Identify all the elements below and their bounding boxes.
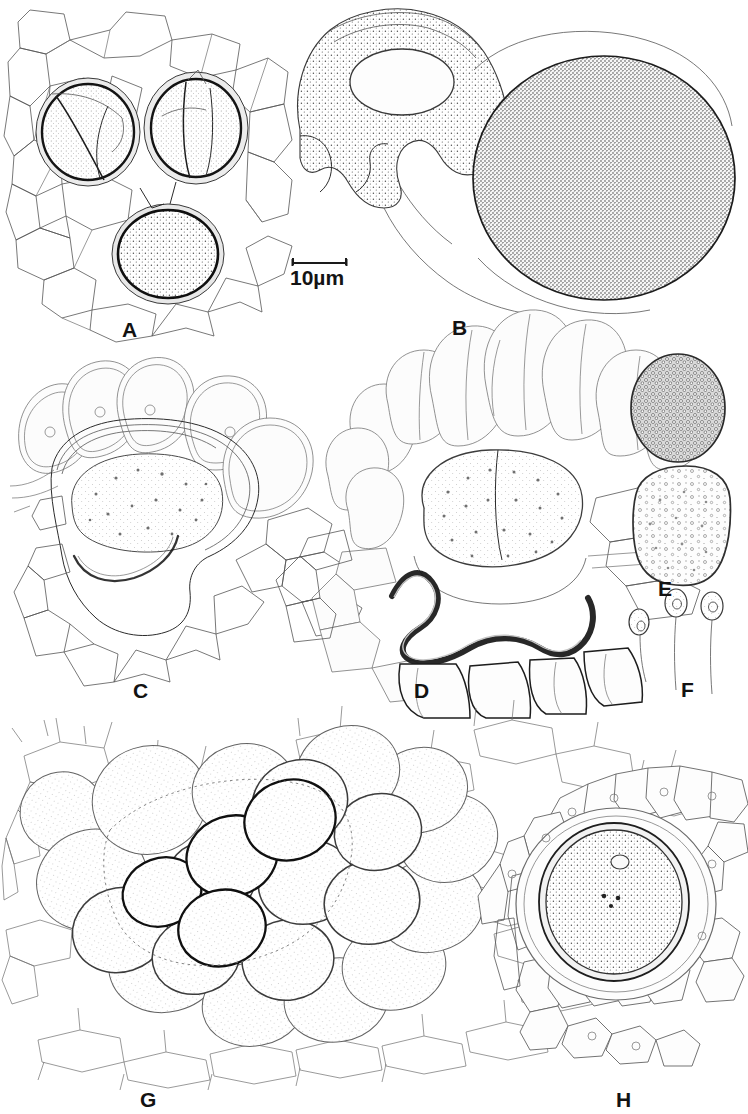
panel-a-spore-3 [112,204,224,304]
panel-h-artwork [478,766,748,1066]
panel-a-artwork [4,10,292,342]
panel-c-capsule [72,454,223,552]
panel-e-artwork [631,354,731,585]
panel-label-g: G [140,1089,156,1110]
panel-label-a: A [122,319,137,340]
panel-f-gemma-3 [701,592,723,694]
scale-bar-tick-right [345,258,347,265]
panel-b-artwork [298,9,735,316]
panel-b-spore [473,31,735,313]
panel-b-inner-vesicle [350,49,454,115]
panel-d-capsule [422,450,582,567]
plate-artwork [0,0,748,1114]
panel-d-dark-wall [392,573,593,663]
panel-label-e: E [658,578,672,599]
panel-label-h: H [616,1089,631,1110]
panel-h-spore-body [546,830,682,974]
panel-b-spore-body [473,56,735,300]
panel-label-b: B [452,317,467,338]
scale-bar-label: 10µm [290,267,362,289]
panel-c-artwork [10,357,362,686]
panel-a-spore-1 [36,78,140,186]
panel-f-gemma-2 [665,589,687,690]
panel-label-f: F [681,679,694,700]
panel-f-artwork [629,589,723,694]
scale-bar-line [290,258,362,267]
panel-e-dark-spore [631,354,725,462]
panel-a-spore-2 [144,70,248,184]
panel-e-pale-cell [633,466,731,585]
figure-plate: 10µm A B C D E F G H [0,0,748,1114]
scale-bar: 10µm [290,258,362,289]
panel-label-d: D [414,680,429,701]
panel-label-c: C [133,680,148,701]
scale-bar-segment [292,262,347,264]
